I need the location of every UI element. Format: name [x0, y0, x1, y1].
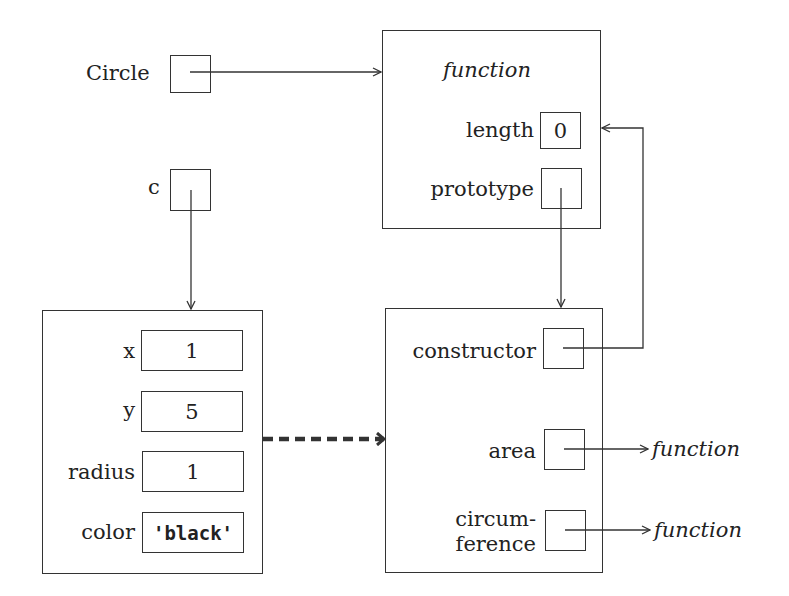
length-slot: 0 [540, 112, 581, 149]
prototype-label: prototype [431, 178, 534, 201]
field-label-x: x [123, 340, 135, 363]
circumference-label-line1: circum- [455, 508, 536, 531]
function-object-title: function [443, 60, 531, 81]
area-label: area [488, 440, 536, 463]
c-variable-slot [170, 169, 211, 211]
c-variable-label: c [148, 177, 160, 198]
field-value-x: 1 [141, 330, 243, 371]
field-value-color: 'black' [142, 512, 244, 553]
field-label-radius: radius [68, 461, 135, 484]
circumference-target-function: function [654, 520, 742, 541]
area-target-function: function [652, 439, 740, 460]
length-label: length [466, 119, 534, 142]
circle-variable-slot [170, 55, 211, 93]
prototype-slot [541, 168, 582, 209]
area-slot [544, 429, 585, 470]
constructor-label: constructor [412, 340, 536, 363]
field-value-y: 5 [141, 391, 243, 432]
constructor-slot [543, 328, 584, 369]
circumference-slot [545, 510, 586, 551]
field-label-y: y [123, 399, 135, 422]
field-value-radius: 1 [142, 451, 244, 492]
circumference-label-line2: ference [456, 533, 536, 556]
field-label-color: color [81, 521, 135, 544]
circle-variable-label: Circle [86, 63, 150, 84]
